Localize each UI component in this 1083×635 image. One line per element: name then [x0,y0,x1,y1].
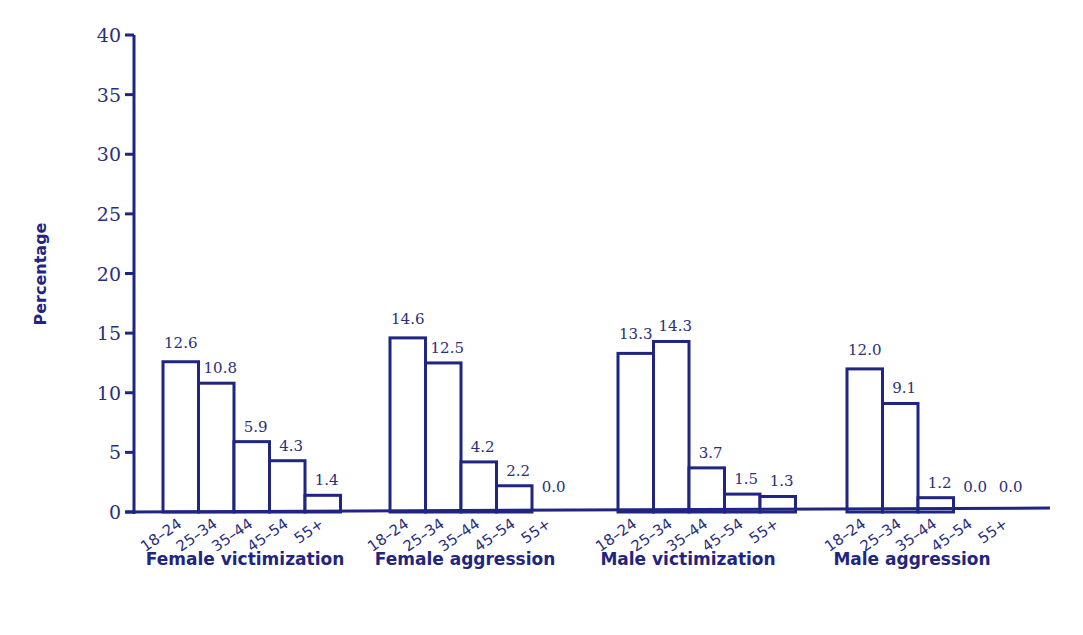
x-category-label: 55+ [291,515,327,548]
y-tick-label: 0 [109,501,121,523]
bar [305,495,341,512]
bar-value-label: 1.2 [928,474,952,492]
y-tick-label: 10 [97,382,121,404]
bar-value-label: 1.5 [734,470,758,488]
x-category-label: 55+ [518,515,554,548]
bar-value-label: 0.0 [542,478,566,496]
y-tick-label: 5 [109,441,121,463]
x-category-label: 55+ [975,515,1011,548]
bar-value-label: 9.1 [892,379,916,397]
bar-value-label: 12.0 [848,341,881,359]
bar [426,363,462,512]
bar-value-label: 0.0 [999,478,1023,496]
group-label: Female victimization [146,549,345,569]
bar-value-label: 5.9 [244,418,268,436]
bar-value-label: 1.4 [315,471,339,489]
bar-value-label: 12.6 [164,334,197,352]
grouped-bar-chart: 0510152025303540 Percentage 12.618–2410.… [0,0,1083,635]
x-category-label: 55+ [746,515,782,548]
y-axis-title: Percentage [31,222,50,325]
bar [461,462,497,512]
group-label: Male aggression [833,549,990,569]
bar-group-female-aggression: 14.618–2412.525–344.235–442.245–540.055+… [364,310,565,569]
bar [847,369,883,512]
y-tick-label: 25 [97,203,121,225]
group-label: Female aggression [375,549,555,569]
bar-value-label: 3.7 [699,444,723,462]
bar-value-label: 13.3 [619,325,652,343]
bar [199,383,235,512]
bar-value-label: 4.2 [471,438,495,456]
group-label: Male victimization [600,549,775,569]
bar-value-label: 1.3 [770,472,794,490]
bar-group-male-victimization: 13.318–2414.325–343.735–441.545–541.355+… [592,317,795,569]
bar-value-label: 2.2 [506,462,530,480]
bar [163,362,199,512]
bars: 12.618–2410.825–345.935–444.345–541.455+… [137,310,1022,569]
y-tick-label: 20 [97,263,121,285]
bar-group-male-aggression: 12.018–249.125–341.235–440.045–540.055+M… [821,341,1022,569]
y-axis: 0510152025303540 [97,24,134,523]
y-tick-label: 30 [97,143,121,165]
bar [654,341,690,512]
bar [390,338,426,512]
bar [689,468,725,512]
bar [618,353,654,512]
y-tick-label: 35 [97,84,121,106]
bar-value-label: 14.3 [659,317,692,335]
bar [234,442,270,512]
bar [883,403,919,512]
y-tick-label: 40 [97,24,121,46]
bar-value-label: 4.3 [279,437,303,455]
bar-value-label: 10.8 [204,359,237,377]
bar [270,461,306,512]
y-tick-label: 15 [97,322,121,344]
bar-group-female-victimization: 12.618–2410.825–345.935–444.345–541.455+… [137,334,344,569]
bar-value-label: 12.5 [431,339,464,357]
bar-value-label: 0.0 [963,478,987,496]
bar-value-label: 14.6 [391,310,424,328]
bar [497,486,533,512]
